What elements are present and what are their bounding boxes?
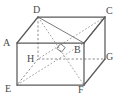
edge-fg	[84, 59, 105, 85]
cuboid-diagram	[0, 0, 118, 99]
edge-bc	[84, 17, 105, 43]
vertex-label-d: D	[33, 5, 40, 15]
vertex-label-h: H	[27, 54, 34, 64]
vertex-label-e: E	[5, 84, 11, 94]
vertex-label-f: F	[78, 85, 84, 95]
vertex-label-b: B	[74, 45, 81, 55]
vertex-label-g: G	[106, 52, 113, 62]
dashed-diagonal-ch	[38, 17, 105, 59]
vertex-label-a: A	[3, 38, 10, 48]
vertex-label-c: C	[106, 6, 113, 16]
geometry-figure-canvas: ABCDEFGH	[0, 0, 118, 99]
diagonal-db	[38, 17, 84, 43]
edge-ad	[17, 17, 38, 43]
